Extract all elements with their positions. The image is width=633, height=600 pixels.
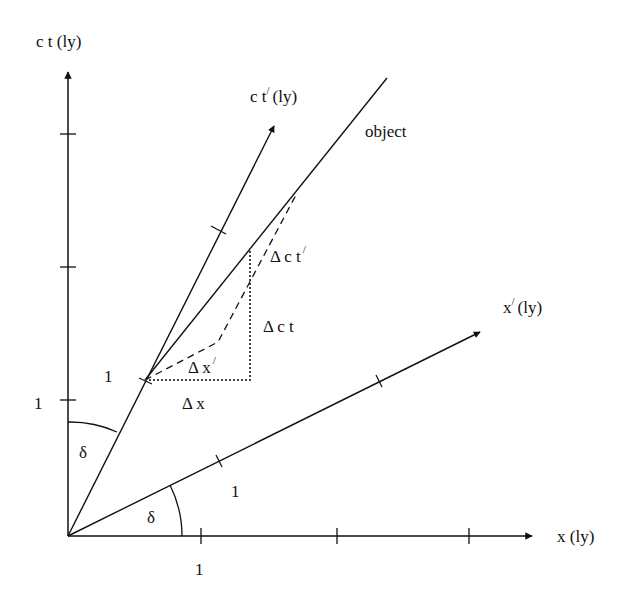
ct-prime-mark: /: [267, 84, 271, 96]
x-prime-label-unit: (ly): [518, 298, 543, 317]
x-prime-mark: /: [512, 295, 516, 307]
delta-x-label: Δ x: [182, 394, 205, 413]
delta-x-prime-mark: /: [213, 354, 217, 366]
delta-label-bottom: δ: [147, 508, 155, 527]
x-axis: [68, 528, 532, 544]
ct-prime-tick-label-1: 1: [104, 367, 113, 386]
x-tick-label-1: 1: [195, 560, 204, 579]
delta-label-top: δ: [79, 443, 87, 462]
x-prime-axis-label: x/(ly): [503, 295, 542, 317]
delta-ct-label: Δ c t: [263, 317, 294, 336]
delta-ct-prime-mark: /: [303, 243, 307, 255]
delta-arc-top: [68, 422, 117, 432]
x-prime-tick-1: [216, 455, 222, 467]
ct-prime-axis-label: c t/(ly): [250, 84, 297, 106]
ct-prime-label-unit: (ly): [273, 87, 298, 106]
ct-prime-axis: [68, 126, 274, 536]
delta-ct-prime-label: Δ c t/: [270, 243, 307, 266]
ct-prime-label-main: c t: [250, 87, 267, 106]
delta-ct-prime-main: Δ c t: [270, 247, 301, 266]
object-label: object: [365, 122, 407, 141]
ct-axis: [60, 72, 76, 536]
ct-tick-label-1: 1: [34, 394, 43, 413]
x-axis-label: x (ly): [557, 527, 594, 546]
delta-x-prime-main: Δ x: [188, 358, 211, 377]
x-prime-tick-label-1: 1: [231, 482, 240, 501]
x-prime-axis: [68, 332, 480, 536]
spacetime-diagram: c t (ly) 1 x (ly) 1 c t/(ly) 1 x/(ly) 1 …: [0, 0, 633, 600]
delta-arc-bottom: [170, 485, 182, 536]
ct-axis-label: c t (ly): [36, 32, 81, 51]
delta-x-prime-label: Δ x/: [188, 354, 217, 377]
